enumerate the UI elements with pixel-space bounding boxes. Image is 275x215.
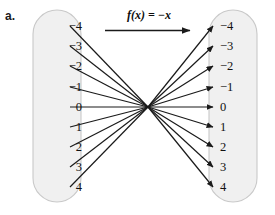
mapping-arrow-to--1 (148, 87, 213, 107)
function-mapping-diagram: a. f(x) = −x (0, 0, 275, 215)
domain-value: −3 (42, 39, 82, 53)
domain-value: −2 (42, 59, 82, 73)
range-value: 4 (220, 180, 260, 194)
range-value: 0 (220, 100, 260, 114)
mapping-arrow-to-2 (148, 107, 213, 147)
range-value-list: −4 −3 −2 −1 0 1 2 3 4 (220, 0, 260, 215)
mapping-arrow-to-4 (148, 107, 213, 187)
range-value: −2 (220, 59, 260, 73)
domain-value: 1 (42, 120, 82, 134)
domain-value: −4 (42, 19, 82, 33)
mapping-arrow-to--2 (148, 66, 213, 107)
range-value: 2 (220, 140, 260, 154)
mapping-arrow-to-1 (148, 107, 213, 127)
range-value: 1 (220, 120, 260, 134)
domain-value: 2 (42, 140, 82, 154)
domain-value-list: −4 −3 −2 −1 0 1 2 3 4 (42, 0, 82, 215)
domain-value: −1 (42, 80, 82, 94)
range-value: −1 (220, 80, 260, 94)
range-value: −3 (220, 39, 260, 53)
mapping-arrow-to--4 (148, 26, 213, 107)
range-value: 3 (220, 160, 260, 174)
domain-value: 0 (42, 100, 82, 114)
mapping-arrows-right (148, 26, 213, 187)
domain-value: 4 (42, 180, 82, 194)
mapping-arrow-to--3 (148, 46, 213, 107)
domain-value: 3 (42, 160, 82, 174)
range-value: −4 (220, 19, 260, 33)
mapping-arrow-to-3 (148, 107, 213, 167)
